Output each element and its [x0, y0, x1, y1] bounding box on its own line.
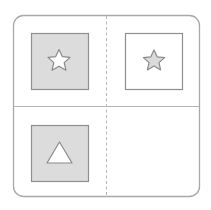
- cell-top-right: [126, 34, 183, 90]
- cell-bottom-left: [32, 126, 89, 182]
- cell-top-left: [32, 34, 89, 90]
- puzzle-diagram: [0, 0, 211, 210]
